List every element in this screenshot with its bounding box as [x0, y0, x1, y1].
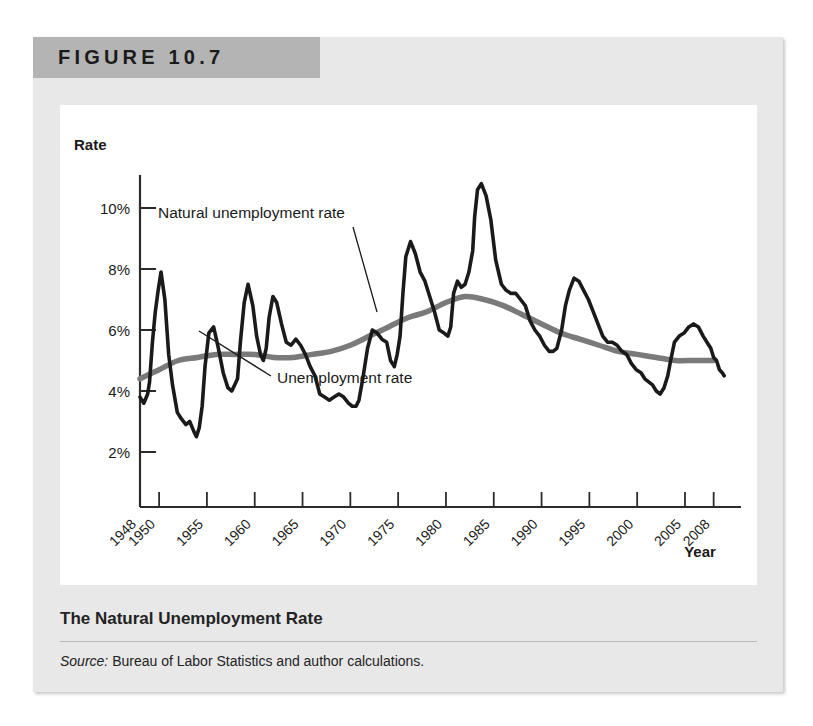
x-axis-title: Year: [684, 543, 716, 560]
figure-number-band: FIGURE 10.7: [33, 37, 320, 78]
unemployment-rate-chart: 2%4%6%8%10% 1948195019551960196519701975…: [60, 105, 757, 585]
x-axis-tick-label: 1990: [507, 516, 540, 549]
caption-divider: [60, 641, 757, 642]
figure-number-label: FIGURE 10.7: [33, 46, 224, 69]
x-axis-tick-label: 1965: [268, 516, 301, 549]
figure-container: FIGURE 10.7 2%4%6%8%10% 1948195019551960…: [33, 37, 783, 692]
x-axis-tick-labels: 1948195019551960196519701975198019851990…: [106, 516, 713, 549]
y-axis-tick-labels: 2%4%6%8%10%: [100, 200, 130, 461]
y-axis-tick-label: 6%: [108, 322, 130, 339]
x-axis-tick-label: 2000: [603, 516, 636, 549]
y-axis-tick-label: 4%: [108, 383, 130, 400]
x-axis-tick-label: 1995: [555, 516, 588, 549]
y-axis-tick-label: 10%: [100, 200, 130, 217]
chart-panel: 2%4%6%8%10% 1948195019551960196519701975…: [60, 105, 757, 585]
figure-caption-title: The Natural Unemployment Rate: [60, 609, 323, 629]
natural-rate-leader-line: [353, 227, 377, 312]
y-axis-tick-label: 8%: [108, 261, 130, 278]
y-axis-tick-label: 2%: [108, 444, 130, 461]
x-axis-tick-label: 1980: [412, 516, 445, 549]
x-axis-tick-label: 2005: [651, 516, 684, 549]
natural-unemployment-rate-line: [140, 296, 714, 378]
y-axis-title: Rate: [74, 136, 107, 153]
chart-series-lines: [140, 184, 724, 437]
chart-axes: [140, 175, 741, 507]
x-axis-tick-label: 1970: [316, 516, 349, 549]
x-axis-tick-label: 1985: [460, 516, 493, 549]
natural-rate-annotation-label: Natural unemployment rate: [158, 204, 345, 221]
source-text: Bureau of Labor Statistics and author ca…: [108, 653, 424, 669]
source-word: Source:: [60, 653, 108, 669]
x-axis-tick-label: 1975: [364, 516, 397, 549]
figure-source-line: Source: Bureau of Labor Statistics and a…: [60, 653, 424, 669]
x-axis-tick-label: 1960: [221, 516, 254, 549]
unemployment-rate-annotation-label: Unemployment rate: [277, 369, 412, 386]
x-axis-tick-label: 1955: [173, 516, 206, 549]
